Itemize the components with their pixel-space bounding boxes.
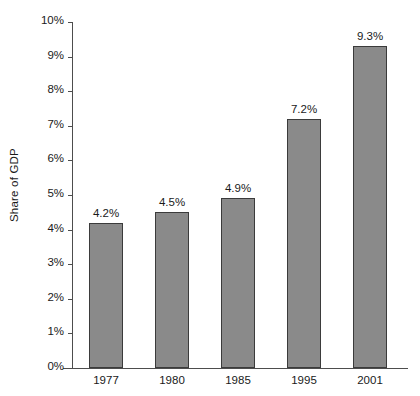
y-axis-title-label: Share of GDP	[8, 148, 20, 222]
y-axis-tick-label: 0%	[47, 360, 64, 372]
y-axis-tick-mark	[68, 22, 73, 23]
bar-value-label: 4.2%	[93, 207, 119, 219]
bar-value-label: 9.3%	[357, 30, 383, 42]
bar-value-label: 4.5%	[159, 196, 185, 208]
y-axis-tick-label: 3%	[47, 256, 64, 268]
x-axis-label: 1977	[93, 374, 119, 386]
bar	[353, 46, 387, 368]
x-axis-label: 2001	[357, 374, 383, 386]
y-axis-tick-mark	[68, 195, 73, 196]
y-axis-tick-mark	[68, 368, 73, 369]
bar-chart: Share of GDP 0%1%2%3%4%5%6%7%8%9%10% 4.2…	[0, 0, 420, 396]
y-axis-tick-mark	[68, 91, 73, 92]
y-axis-tick-label: 5%	[47, 187, 64, 199]
bar	[287, 119, 321, 368]
x-axis-label: 1985	[225, 374, 251, 386]
y-axis-tick-label: 1%	[47, 325, 64, 337]
bar-group: 7.2%	[287, 22, 321, 368]
y-axis-tick-label: 4%	[47, 222, 64, 234]
bar	[221, 198, 255, 368]
y-axis-title: Share of GDP	[0, 0, 28, 370]
x-axis-label: 1995	[291, 374, 317, 386]
y-axis-tick-mark	[68, 160, 73, 161]
y-axis-tick-mark	[68, 57, 73, 58]
bar-group: 4.2%	[89, 22, 123, 368]
bar-group: 4.5%	[155, 22, 189, 368]
y-axis-tick-mark	[68, 264, 73, 265]
bar-group: 9.3%	[353, 22, 387, 368]
y-axis-tick-mark	[68, 230, 73, 231]
bar	[155, 212, 189, 368]
y-axis-tick-mark	[68, 126, 73, 127]
y-axis-tick-label: 2%	[47, 291, 64, 303]
bar	[89, 223, 123, 368]
y-axis-tick-label: 7%	[47, 118, 64, 130]
x-axis-label: 1980	[159, 374, 185, 386]
x-axis-line	[63, 368, 408, 369]
y-axis-tick-label: 9%	[47, 49, 64, 61]
bar-group: 4.9%	[221, 22, 255, 368]
y-axis-tick-mark	[68, 333, 73, 334]
bar-value-label: 4.9%	[225, 182, 251, 194]
bar-value-label: 7.2%	[291, 103, 317, 115]
y-axis-tick-mark	[68, 299, 73, 300]
y-axis-tick-label: 8%	[47, 83, 64, 95]
y-axis-tick-label: 6%	[47, 152, 64, 164]
y-axis-tick-label: 10%	[41, 14, 64, 26]
